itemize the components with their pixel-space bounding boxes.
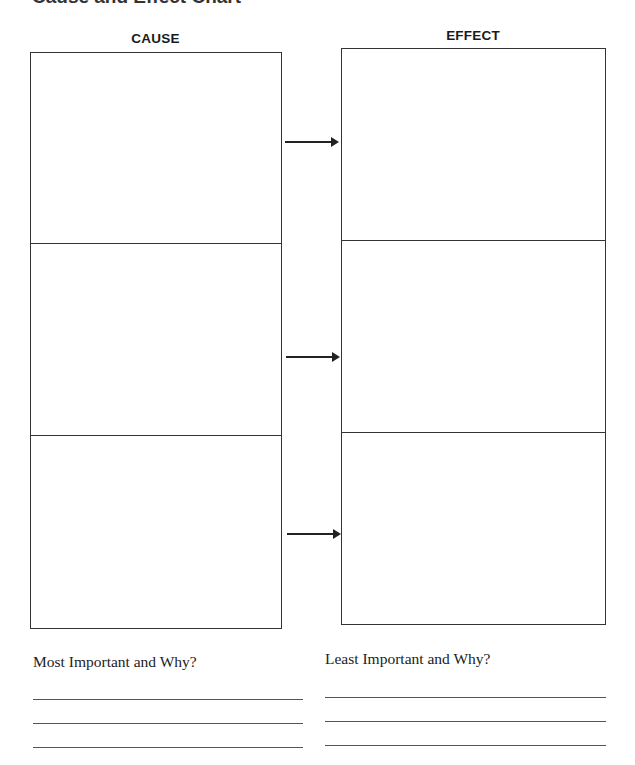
effect-row-divider xyxy=(341,432,606,433)
most-important-label: Most Important and Why? xyxy=(33,653,197,671)
cause-cell-2[interactable] xyxy=(32,245,280,433)
cause-cell-1[interactable] xyxy=(32,54,280,242)
most-important-answer-line-2[interactable] xyxy=(33,723,303,724)
least-important-answer-line-2[interactable] xyxy=(325,721,606,722)
right-arrow-icon xyxy=(286,352,340,362)
effect-cell-1[interactable] xyxy=(343,50,604,238)
effect-column-label: EFFECT xyxy=(341,28,605,43)
most-important-answer-line-3[interactable] xyxy=(33,747,303,748)
effect-cell-2[interactable] xyxy=(343,242,604,430)
least-important-answer-line-3[interactable] xyxy=(325,745,606,746)
least-important-label: Least Important and Why? xyxy=(325,650,490,668)
right-arrow-icon xyxy=(285,137,339,147)
most-important-answer-line-1[interactable] xyxy=(33,699,303,700)
right-arrow-icon xyxy=(287,529,341,539)
page-title: Cause and Effect Chart xyxy=(32,0,241,8)
least-important-answer-line-1[interactable] xyxy=(325,697,606,698)
cause-cell-3[interactable] xyxy=(32,437,280,626)
cause-column-label: CAUSE xyxy=(30,31,281,46)
effect-cell-3[interactable] xyxy=(343,434,604,623)
cause-row-divider xyxy=(30,243,282,244)
cause-row-divider xyxy=(30,435,282,436)
effect-row-divider xyxy=(341,240,606,241)
